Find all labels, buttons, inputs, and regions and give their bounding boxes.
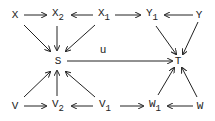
arrow-x-to-s	[24, 25, 50, 51]
node-y: Y	[196, 10, 203, 21]
arrow-v1-to-s	[66, 72, 95, 97]
node-y1: Y1	[146, 8, 158, 24]
arrow-w-to-t	[182, 68, 197, 97]
arrow-w1-to-t	[158, 68, 174, 95]
node-v: V	[12, 101, 19, 112]
node-x2: X2	[52, 8, 64, 24]
arrow-y-to-t	[183, 22, 198, 54]
node-s: S	[55, 56, 62, 67]
node-x1: X1	[98, 8, 110, 24]
node-w: W	[197, 101, 204, 112]
arrow-x1-to-s	[66, 25, 95, 51]
arrow-v-to-s	[24, 72, 50, 97]
node-v1: V1	[99, 99, 111, 115]
node-v2: V2	[52, 99, 64, 115]
arrow-y1-to-t	[156, 26, 176, 54]
edge-label-u: u	[100, 45, 107, 56]
node-w1: W1	[149, 99, 161, 115]
node-t: T	[175, 56, 182, 67]
node-x: X	[12, 10, 19, 21]
